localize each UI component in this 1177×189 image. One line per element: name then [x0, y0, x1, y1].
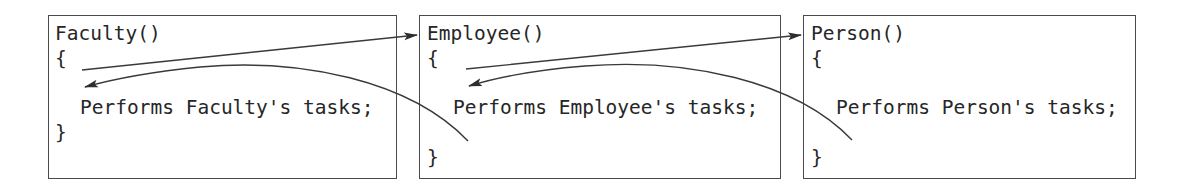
- person-close-brace: }: [811, 148, 823, 168]
- faculty-close-brace: }: [55, 123, 67, 143]
- employee-close-brace: }: [427, 148, 439, 168]
- faculty-open-brace: {: [55, 49, 67, 69]
- faculty-constructor-header: Faculty(): [55, 24, 161, 44]
- person-body-statement: Performs Person's tasks;: [836, 98, 1118, 118]
- faculty-body-statement: Performs Faculty's tasks;: [80, 98, 374, 118]
- employee-constructor-header: Employee(): [427, 24, 544, 44]
- person-open-brace: {: [811, 49, 823, 69]
- employee-body-statement: Performs Employee's tasks;: [453, 98, 758, 118]
- employee-open-brace: {: [427, 49, 439, 69]
- person-constructor-header: Person(): [811, 24, 905, 44]
